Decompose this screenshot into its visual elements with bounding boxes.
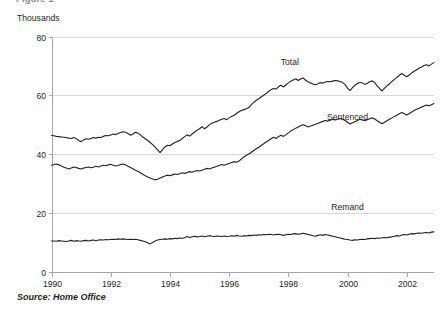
data-series-group	[52, 63, 434, 244]
line-chart-plot-area: 020406080 1990199219941996199820002002 T…	[0, 0, 441, 313]
x-tick-label-1994: 1994	[161, 279, 180, 289]
series-line-sentenced	[52, 103, 434, 179]
series-annotations-group: TotalSentencedRemand	[281, 57, 369, 212]
x-tick-label-2002: 2002	[398, 279, 417, 289]
x-tick-label-1996: 1996	[220, 279, 239, 289]
gridlines-group	[52, 38, 435, 214]
y-tick-label-40: 40	[36, 150, 46, 160]
x-axis-group: 1990199219941996199820002002	[43, 273, 434, 290]
series-line-remand	[52, 232, 434, 244]
prison-population-chart-figure: Figure 1 Thousands 020406080 19901992199…	[0, 0, 441, 313]
y-tick-label-80: 80	[36, 33, 46, 43]
y-axis-group: 020406080	[36, 33, 52, 278]
x-tick-label-2000: 2000	[339, 279, 358, 289]
x-tick-label-1998: 1998	[279, 279, 298, 289]
y-tick-label-60: 60	[36, 91, 46, 101]
x-tick-label-1990: 1990	[43, 279, 62, 289]
y-tick-label-20: 20	[36, 209, 46, 219]
source-note: Source: Home Office	[17, 292, 106, 302]
x-tick-label-1992: 1992	[102, 279, 121, 289]
series-label-total: Total	[281, 57, 299, 67]
series-label-sentenced: Sentenced	[327, 112, 368, 122]
series-line-total	[52, 63, 434, 153]
y-tick-label-0: 0	[41, 268, 46, 278]
series-label-remand: Remand	[331, 202, 364, 212]
